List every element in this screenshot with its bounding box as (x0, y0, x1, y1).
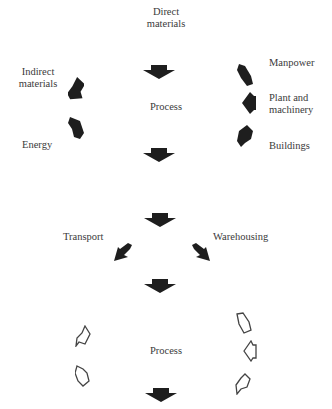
direct-materials-label: Direct materials (135, 6, 197, 30)
outflow-arrow-icon (192, 243, 210, 261)
down-arrow-icon (145, 388, 177, 402)
down-arrow-icon (143, 148, 175, 162)
outline-arrow-icon (243, 340, 257, 362)
inflow-arrow-icon (68, 117, 84, 141)
transport-label: Transport (63, 231, 103, 243)
inflow-arrow-icon (68, 77, 84, 101)
inflow-arrow-icon (237, 125, 253, 147)
inflow-arrow-icon (237, 64, 253, 86)
outline-arrow-icon (235, 373, 251, 395)
energy-label: Energy (22, 139, 52, 151)
buildings-label: Buildings (269, 140, 310, 152)
outline-arrow-icon (236, 312, 252, 334)
outline-arrow-icon (75, 325, 91, 347)
warehousing-label: Warehousing (213, 231, 268, 243)
process-label: Process (140, 345, 192, 357)
manpower-label: Manpower (269, 57, 315, 69)
outflow-arrow-icon (114, 243, 132, 261)
outline-arrow-icon (75, 365, 91, 387)
inflow-arrow-icon (242, 92, 256, 114)
down-arrow-icon (144, 213, 176, 227)
indirect-materials-label: Indirect materials (18, 66, 58, 90)
plant-and-machinery-label: Plant and machinery (269, 92, 313, 116)
process-label: Process (140, 101, 192, 113)
down-arrow-icon (144, 279, 176, 293)
down-arrow-icon (143, 65, 175, 79)
